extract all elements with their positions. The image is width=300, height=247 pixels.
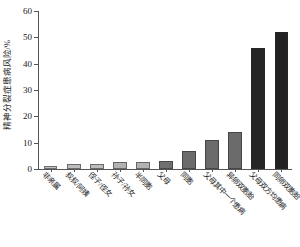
x-axis-label: 半同胞 <box>133 171 153 191</box>
y-axis-title-text: 精神分裂症患病风险/% <box>3 40 12 130</box>
y-axis-tick <box>34 90 38 91</box>
bar <box>159 161 173 169</box>
x-axis-label: 叔叔/阿姨 <box>63 171 90 198</box>
bar <box>182 151 196 169</box>
x-axis-label: 非亲属 <box>40 171 60 191</box>
y-axis-tick-label: 40 <box>23 59 32 68</box>
x-axis-label: 父母 <box>156 171 171 186</box>
bars-group <box>39 11 292 169</box>
y-axis-tick <box>34 169 38 170</box>
y-axis-tick-label: 30 <box>23 86 32 95</box>
y-axis-tick <box>34 11 38 12</box>
bar <box>205 140 219 169</box>
y-axis-tick-label: 50 <box>23 33 32 42</box>
y-axis-tick-label: 20 <box>23 112 32 121</box>
x-axis-labels: 非亲属叔叔/阿姨侄子/侄女孙子/孙女半同胞父母同胞父母其中一个患病异卵双胞胎父母… <box>38 171 300 247</box>
y-axis-tick <box>34 37 38 38</box>
bar <box>136 162 150 169</box>
x-axis-label: 同胞 <box>179 171 194 186</box>
plot-area: 0102030405060 <box>38 11 292 169</box>
bar <box>275 32 289 169</box>
y-axis-tick <box>34 116 38 117</box>
y-axis-title: 精神分裂症患病风险/% <box>0 0 14 170</box>
y-axis-tick-label: 10 <box>23 138 32 147</box>
bar <box>251 48 265 169</box>
y-axis-tick <box>34 143 38 144</box>
bar <box>228 132 242 169</box>
bar-chart: 精神分裂症患病风险/% 0102030405060 非亲属叔叔/阿姨侄子/侄女孙… <box>0 0 300 247</box>
y-axis-tick-label: 0 <box>28 165 33 174</box>
y-axis-tick <box>34 64 38 65</box>
x-axis-label: 父母其中一个患病 <box>202 171 247 216</box>
bar <box>113 162 127 169</box>
x-axis-label: 侄子/侄女 <box>86 171 113 198</box>
y-axis-tick-label: 60 <box>23 7 32 16</box>
